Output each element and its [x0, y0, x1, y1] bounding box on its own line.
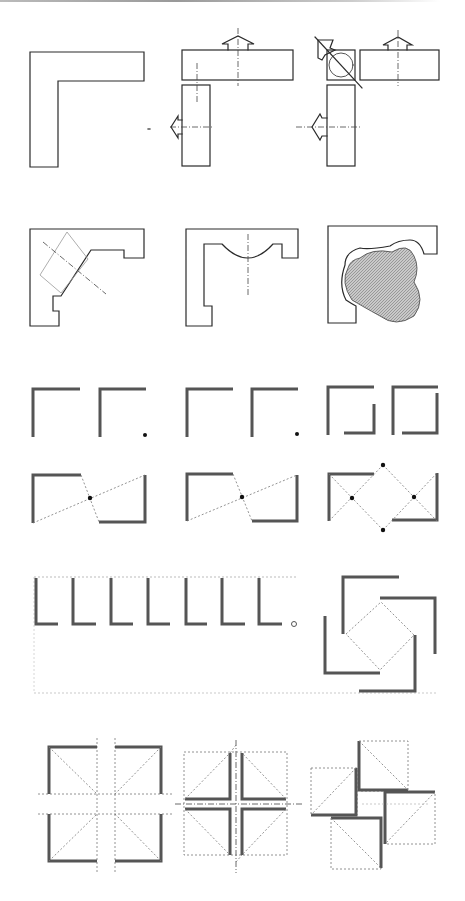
figure-interlocking-L-walls — [328, 387, 438, 435]
figure-opposed-L-central-point-2 — [187, 474, 297, 521]
figure-rotated-L-pinwheel — [311, 741, 435, 869]
figure-split-L-corner-node — [296, 30, 439, 166]
figure-L-curved-inner-edge — [186, 229, 298, 326]
figure-two-L-walls-point — [187, 389, 299, 437]
figure-two-L-walls-open — [33, 389, 147, 437]
entry-arrow-icon — [383, 37, 412, 50]
figure-L-diagonal-corner — [30, 229, 144, 326]
figure-opposed-L-double-diamond — [329, 463, 437, 532]
figure-four-L-cross-axis — [175, 740, 302, 873]
figure-opposed-L-central-point — [33, 475, 145, 523]
figure-L-organic-courtyard — [328, 226, 437, 323]
figure-pinwheel-L-around-square — [325, 577, 435, 691]
figure-split-L-entry-arrows — [148, 28, 293, 166]
figure-repeated-L-series — [34, 577, 438, 693]
figure-four-L-quadrants — [38, 738, 172, 872]
diagram-sheet — [0, 0, 465, 901]
figure-solid-L — [30, 52, 144, 167]
